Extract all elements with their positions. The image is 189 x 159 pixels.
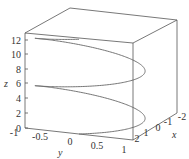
y-tick-label: -1 bbox=[10, 127, 18, 138]
z-tick-label: 2 bbox=[16, 108, 21, 119]
y-axis: -1-0.500.51 bbox=[10, 127, 127, 155]
z-axis-label: z bbox=[3, 78, 8, 89]
z-tick-label: 4 bbox=[16, 93, 21, 104]
y-axis-label: y bbox=[57, 147, 63, 158]
x-tick-label: -2 bbox=[178, 111, 186, 122]
z-tick-label: 12 bbox=[11, 35, 21, 46]
y-tick-label: 0.5 bbox=[91, 140, 104, 151]
x-tick-label: 1 bbox=[144, 127, 149, 138]
z-tick-label: 6 bbox=[16, 78, 21, 89]
z-axis: 024681012 bbox=[11, 35, 28, 134]
z-tick-label: 8 bbox=[16, 64, 21, 75]
x-tick-label: 2 bbox=[135, 133, 140, 144]
y-tick-label: 1 bbox=[122, 144, 127, 155]
helix-curve bbox=[35, 38, 145, 134]
bounding-box bbox=[25, 8, 177, 140]
x-tick-label: 0 bbox=[156, 122, 161, 133]
z-tick-label: 10 bbox=[11, 49, 21, 60]
helix-3d-plot: 024681012 -1-0.500.51 -2-1012 z y x bbox=[0, 0, 189, 159]
x-tick-label: -1 bbox=[164, 116, 172, 127]
y-tick-label: 0 bbox=[68, 136, 73, 147]
y-tick-label: -0.5 bbox=[32, 131, 48, 142]
x-axis-label: x bbox=[171, 129, 177, 140]
x-axis: -2-1012 bbox=[135, 111, 187, 144]
